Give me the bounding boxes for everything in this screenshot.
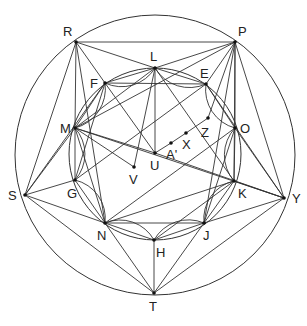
label-G: G — [67, 186, 77, 201]
point-G — [73, 178, 77, 182]
segment-S-N — [25, 195, 105, 223]
point-E — [204, 82, 208, 86]
label-F: F — [90, 76, 98, 91]
point-O — [233, 126, 237, 130]
label-M: M — [60, 121, 71, 136]
point-N — [103, 221, 107, 225]
label-V: V — [129, 172, 138, 187]
point-F — [103, 81, 107, 85]
label-T: T — [149, 299, 157, 314]
label-R: R — [63, 24, 72, 39]
point-S — [23, 193, 27, 197]
label-L: L — [150, 49, 157, 64]
segment-F-E — [105, 83, 206, 84]
segment-Y-J — [204, 198, 284, 223]
point-Y — [282, 196, 286, 200]
segment-L-K — [155, 68, 234, 181]
label-P: P — [238, 24, 247, 39]
point-J — [202, 221, 206, 225]
segment-P-L — [155, 42, 235, 68]
point-P — [233, 40, 237, 44]
label-S: S — [8, 188, 17, 203]
segment-M-N — [75, 128, 105, 223]
segment-N-H — [105, 223, 154, 240]
segment-L-M — [75, 68, 155, 128]
segment-G-N — [75, 180, 105, 223]
label-O: O — [240, 121, 250, 136]
segment-J-K — [204, 181, 234, 223]
segment-F-L — [105, 68, 155, 83]
segment-R-S — [25, 42, 76, 195]
segment-T-N — [105, 223, 154, 293]
label-J: J — [203, 228, 210, 243]
point-Z — [206, 116, 210, 120]
label-A': A' — [166, 147, 177, 162]
construction-canvas: RPLFEMOZXA'UVSGKYNJHT — [0, 0, 307, 326]
segment-S-F — [25, 83, 105, 195]
segment-L-E — [155, 68, 206, 84]
label-H: H — [156, 245, 165, 260]
point-H — [152, 238, 156, 242]
segment-H-J — [154, 223, 204, 240]
segment-P-E — [206, 42, 235, 84]
segment-R-L — [76, 42, 155, 68]
segment-F-U — [105, 83, 155, 153]
label-K: K — [238, 186, 247, 201]
label-U: U — [150, 158, 159, 173]
point-A' — [169, 141, 173, 145]
point-L — [153, 66, 157, 70]
segment-N-K — [105, 181, 234, 223]
point-V — [132, 165, 136, 169]
geometry-diagram: RPLFEMOZXA'UVSGKYNJHT — [0, 0, 307, 326]
point-U — [153, 151, 157, 155]
segment-T-Y — [154, 198, 284, 293]
segment-M-V — [75, 128, 134, 167]
label-Y: Y — [292, 191, 301, 206]
label-N: N — [97, 228, 106, 243]
point-X — [184, 131, 188, 135]
point-M — [73, 126, 77, 130]
point-T — [152, 291, 156, 295]
segment-R-M — [75, 42, 76, 128]
label-E: E — [200, 66, 209, 81]
point-R — [74, 40, 78, 44]
label-X: X — [182, 137, 191, 152]
segment-P-Y — [235, 42, 284, 198]
arc-L-F — [105, 68, 155, 87]
point-K — [232, 179, 236, 183]
label-Z: Z — [201, 125, 209, 140]
